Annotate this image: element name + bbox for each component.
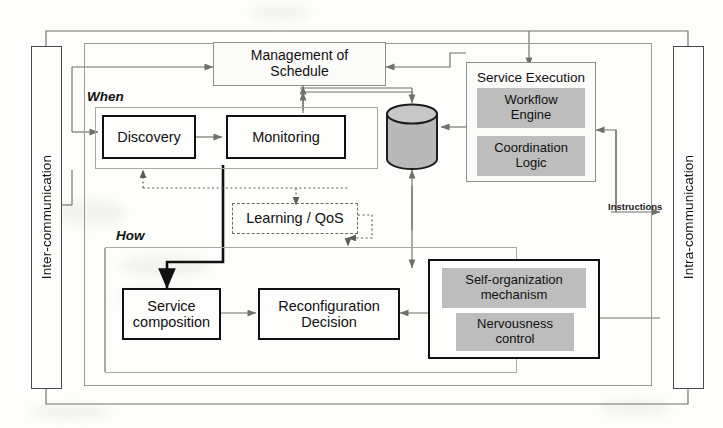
management-of-schedule-line2: Schedule	[270, 64, 328, 80]
workflow-engine-line2: Engine	[511, 108, 551, 123]
service-composition-line2: composition	[133, 314, 210, 330]
group-label-how: How	[116, 228, 145, 243]
sidebar-intra-communication[interactable]: Intra-communication	[673, 46, 704, 389]
node-self-organization-mechanism[interactable]: Self-organization mechanism	[442, 268, 586, 308]
sidebar-inter-communication-label: Inter-communication	[39, 155, 54, 279]
service-execution-title: Service Execution	[466, 70, 596, 85]
diagram-canvas: Inter-communication Intra-communication …	[0, 0, 723, 428]
node-service-composition[interactable]: Service composition	[122, 288, 221, 340]
reconfiguration-decision-line1: Reconfiguration	[278, 298, 380, 314]
discovery-label: Discovery	[117, 129, 181, 145]
self-organization-line1: Self-organization	[465, 273, 563, 288]
sidebar-intra-communication-label: Intra-communication	[681, 155, 696, 279]
nervousness-control-line1: Nervousness	[477, 317, 553, 332]
monitoring-label: Monitoring	[252, 129, 320, 145]
node-management-of-schedule[interactable]: Management of Schedule	[213, 42, 386, 86]
coordination-logic-line2: Logic	[515, 156, 546, 171]
learning-qos-label: Learning / QoS	[246, 210, 344, 226]
database-cylinder-icon	[384, 103, 441, 171]
self-organization-line2: mechanism	[481, 288, 547, 303]
workflow-engine-line1: Workflow	[504, 93, 557, 108]
edge-label-instructions: Instructions	[608, 201, 662, 212]
node-repository[interactable]	[384, 103, 441, 175]
node-coordination-logic[interactable]: Coordination Logic	[477, 136, 585, 176]
node-discovery[interactable]: Discovery	[102, 115, 196, 159]
sidebar-inter-communication[interactable]: Inter-communication	[31, 46, 62, 389]
node-reconfiguration-decision[interactable]: Reconfiguration Decision	[258, 288, 400, 340]
node-nervousness-control[interactable]: Nervousness control	[456, 313, 574, 351]
node-monitoring[interactable]: Monitoring	[226, 115, 346, 159]
coordination-logic-line1: Coordination	[494, 141, 568, 156]
reconfiguration-decision-line2: Decision	[301, 314, 357, 330]
group-label-when: When	[87, 89, 124, 104]
management-of-schedule-line1: Management of	[251, 48, 348, 64]
service-composition-line1: Service	[147, 298, 195, 314]
node-workflow-engine[interactable]: Workflow Engine	[477, 88, 585, 128]
node-learning-qos[interactable]: Learning / QoS	[232, 203, 358, 234]
nervousness-control-line2: control	[495, 332, 534, 347]
